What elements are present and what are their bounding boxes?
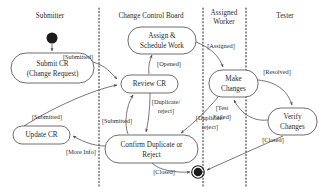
transition-more-info-to-update-cr xyxy=(73,136,105,146)
node-assign-schedule-work-label-line2: Schedule Work xyxy=(140,42,184,50)
transition-submitted-to-review-cr xyxy=(93,62,117,79)
guard-test-failed-line1: [Test xyxy=(216,104,229,112)
guard-submitted-update-to-review: [Submitted] xyxy=(32,113,62,121)
lane-title-tester: Tester xyxy=(276,12,294,20)
guard-duplicate-reject-left-line1: [Duplicate/ xyxy=(152,98,181,106)
transition-duplicate-reject-review-to-confirm xyxy=(146,93,150,132)
guard-duplicate-reject-left-line2: reject] xyxy=(158,107,174,115)
node-confirm-duplicate-or-reject[interactable]: Confirm Duplicate or Reject xyxy=(105,135,198,163)
node-make-changes-label-line2: Changes xyxy=(221,85,246,93)
initial-state xyxy=(47,33,58,44)
node-confirm-duplicate-or-reject-label-line2: Reject xyxy=(142,151,160,159)
final-state-dot xyxy=(194,168,203,177)
lane-title-change-control-board: Change Control Board xyxy=(118,12,183,20)
transition-test-failed-to-make-changes xyxy=(234,100,268,120)
node-confirm-duplicate-or-reject-shape xyxy=(105,135,198,163)
guard-submitted-confirm-to-review: [Submitted] xyxy=(102,117,132,125)
guard-resolved: [Resolved] xyxy=(263,68,291,76)
node-submit-cr-label-line2: (Change Request) xyxy=(27,70,79,78)
node-make-changes-label-line1: Make xyxy=(225,75,241,83)
node-assign-schedule-work-label-line1: Assign & xyxy=(148,32,176,40)
swimlane-titles: Submitter Change Control Board Assigned … xyxy=(36,9,295,26)
initial-state-dot xyxy=(47,33,58,44)
node-make-changes[interactable]: Make Changes xyxy=(209,70,258,97)
guard-more-info: [More Info] xyxy=(66,148,96,156)
node-verify-changes-label-line2: Changes xyxy=(280,123,305,131)
node-update-cr-label: Update CR xyxy=(25,131,57,139)
transition-opened-to-assign-schedule-work xyxy=(149,55,152,74)
guard-duplicate-reject-right-line1: [Duplicate/ xyxy=(196,114,225,122)
node-review-cr-label: Review CR xyxy=(133,80,167,88)
uml-activity-diagram: Submitter Change Control Board Assigned … xyxy=(0,0,322,189)
guard-closed-verify: [Closed] xyxy=(262,136,284,144)
guard-duplicate-reject-right-line2: reject] xyxy=(202,123,218,131)
node-review-cr[interactable]: Review CR xyxy=(121,75,178,93)
node-verify-changes-label-line1: Verify xyxy=(284,113,302,121)
node-assign-schedule-work[interactable]: Assign & Schedule Work xyxy=(128,27,196,54)
lane-title-submitter: Submitter xyxy=(36,12,65,20)
final-state xyxy=(192,166,205,179)
diagram-canvas: Submitter Change Control Board Assigned … xyxy=(0,0,322,189)
node-confirm-duplicate-or-reject-label-line1: Confirm Duplicate or xyxy=(121,141,183,149)
node-update-cr[interactable]: Update CR xyxy=(13,126,70,144)
node-submit-cr-label-line1: Submit CR xyxy=(36,60,68,68)
lane-title-assigned-worker-line2: Worker xyxy=(213,18,235,26)
guard-closed-confirm: [Closed] xyxy=(153,168,175,176)
transition-submitted-confirm-to-review-cr xyxy=(126,95,133,134)
guard-assigned: [Assigned] xyxy=(207,42,235,50)
lane-title-assigned-worker-line1: Assigned xyxy=(211,9,238,17)
node-verify-changes[interactable]: Verify Changes xyxy=(268,108,317,135)
guard-submitted-submit-to-review: [Submitted] xyxy=(63,53,93,61)
transition-resolved-to-verify-changes xyxy=(258,80,292,105)
guard-opened: [Opened] xyxy=(157,60,181,68)
